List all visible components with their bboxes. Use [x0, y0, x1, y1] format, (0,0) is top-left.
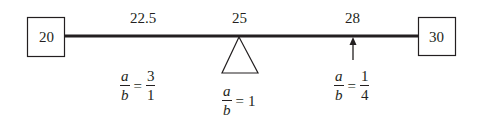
ratio-right: ab = 14	[334, 69, 369, 103]
top-label-25: 25	[232, 11, 247, 26]
ratio-center-equals: =	[236, 93, 244, 110]
right-box-value: 30	[418, 29, 455, 46]
ratio-right-den: 4	[360, 86, 370, 103]
ratio-right-equals: =	[348, 78, 356, 95]
top-label-22-5: 22.5	[130, 11, 156, 26]
fulcrum-triangle	[222, 37, 258, 73]
pointer-arrow-icon	[350, 37, 357, 60]
ratio-left-equals: =	[134, 78, 142, 95]
ratio-center-value: 1	[248, 93, 256, 110]
ratio-left-den: 1	[146, 86, 156, 103]
ratio-center: ab = 1	[222, 84, 255, 115]
ratio-left: ab = 31	[120, 69, 155, 103]
ratio-left-num: 3	[146, 69, 156, 86]
ratio-center-den-var: b	[222, 101, 232, 115]
ratio-left-num-var: a	[120, 69, 130, 86]
top-label-28: 28	[345, 11, 360, 26]
ratio-right-num-var: a	[334, 69, 344, 86]
left-box-value: 20	[28, 29, 65, 46]
ratio-right-num: 1	[360, 69, 370, 86]
ratio-left-den-var: b	[120, 86, 130, 103]
ratio-right-den-var: b	[334, 86, 344, 103]
ratio-center-num-var: a	[222, 84, 232, 101]
